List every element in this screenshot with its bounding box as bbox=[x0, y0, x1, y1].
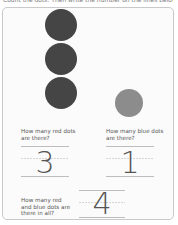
question-blue-dots: How many blue dots are there? bbox=[106, 128, 163, 141]
question-red-dots: How many red dots are there? bbox=[21, 128, 76, 141]
red-dot bbox=[45, 9, 77, 41]
question-text: are there? bbox=[21, 135, 76, 142]
answer-blue-dots[interactable]: 1 bbox=[106, 148, 154, 178]
question-text: How many blue dots bbox=[106, 128, 163, 135]
question-total-dots: How many red and blue dots are there in … bbox=[21, 197, 70, 217]
answer-red-dots[interactable]: 3 bbox=[21, 148, 69, 178]
question-text: How many red dots bbox=[21, 128, 76, 135]
question-text: are there? bbox=[106, 135, 163, 142]
answer-total-dots[interactable]: 4 bbox=[79, 189, 125, 219]
red-dot bbox=[45, 77, 77, 109]
question-text: there in all? bbox=[21, 210, 70, 217]
instruction-text: Count the dots. Then write the number on… bbox=[3, 0, 173, 4]
blue-dot bbox=[115, 89, 143, 117]
red-dot bbox=[45, 43, 77, 75]
